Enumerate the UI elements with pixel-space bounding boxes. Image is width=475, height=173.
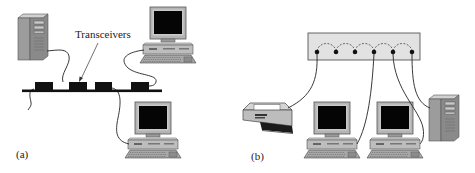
diagram-canvas (0, 0, 475, 173)
bus-end-cable (28, 89, 34, 110)
panel-b-hub-topology (243, 33, 459, 158)
network-diagram: Transceivers (a) (b) (0, 0, 475, 173)
transceivers-callout-label: Transceivers (75, 28, 131, 40)
desktop-computer-icon (140, 7, 196, 63)
transceiver (69, 82, 87, 90)
server-tower-icon (18, 14, 48, 60)
arrowhead-icon (79, 77, 83, 83)
printer-icon (243, 103, 293, 134)
panel-a-label: (a) (16, 148, 28, 160)
desktop-computer-icon (125, 102, 181, 158)
transceiver (131, 82, 149, 90)
callout-arrow (81, 43, 98, 79)
hub (308, 33, 420, 60)
transceiver (35, 82, 53, 90)
server-tower-icon (429, 95, 459, 141)
drop-cable (112, 88, 129, 144)
transceiver (95, 82, 112, 90)
desktop-computer-icon (304, 102, 360, 158)
panel-b-label: (b) (251, 150, 264, 162)
drop-cable (47, 50, 69, 82)
